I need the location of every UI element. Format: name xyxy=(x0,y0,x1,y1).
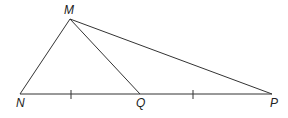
label-q: Q xyxy=(136,96,145,110)
segment-mp xyxy=(70,19,272,94)
segment-mn xyxy=(20,19,70,94)
segment-mq xyxy=(70,19,140,94)
label-m: M xyxy=(64,3,74,17)
label-p: P xyxy=(270,96,278,110)
label-n: N xyxy=(16,96,25,110)
triangle-diagram: M N Q P xyxy=(0,0,288,118)
